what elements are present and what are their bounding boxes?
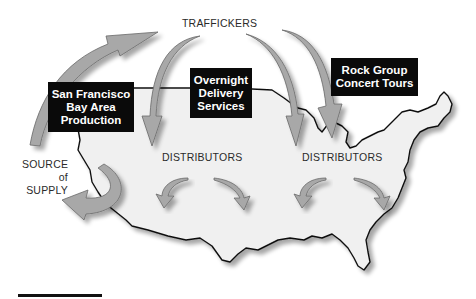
box-line: Rock Group — [342, 64, 408, 77]
box-line: Production — [61, 114, 122, 127]
box-line: San Francisco — [52, 88, 131, 101]
sf-bay-area-production-box: San Francisco Bay Area Production — [48, 82, 134, 132]
rock-group-concert-tours-box: Rock Group Concert Tours — [331, 58, 418, 96]
box-line: Concert Tours — [336, 77, 414, 90]
distributors-west-label: DISTRIBUTORS — [162, 151, 242, 163]
box-line: Bay Area — [66, 101, 115, 114]
us-map — [78, 88, 452, 270]
distributors-east-label: DISTRIBUTORS — [302, 151, 382, 163]
box-line: Overnight — [194, 74, 248, 87]
overnight-delivery-services-box: Overnight Delivery Services — [190, 68, 252, 118]
box-line: Services — [197, 100, 244, 113]
source-line: of — [22, 171, 68, 184]
traffickers-label: TRAFFICKERS — [182, 17, 257, 29]
box-line: Delivery — [199, 87, 244, 100]
source-of-supply-label: SOURCE of SUPPLY — [22, 158, 68, 197]
source-line: SOURCE — [22, 158, 68, 171]
source-line: SUPPLY — [22, 184, 68, 197]
caption-rule — [18, 294, 102, 297]
trafficking-diagram — [0, 0, 476, 299]
